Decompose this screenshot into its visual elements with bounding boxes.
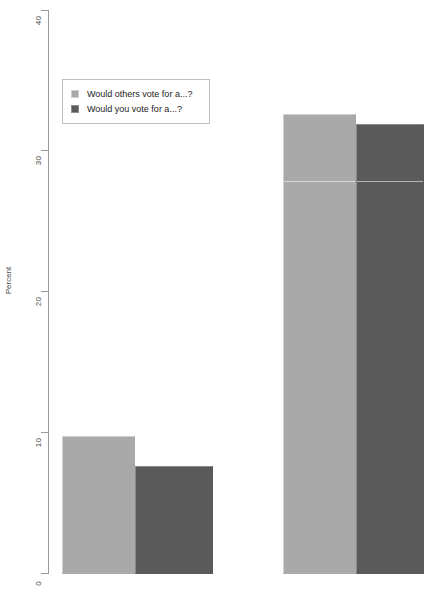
y-axis-tick-label-30-wrap: 30 bbox=[16, 145, 38, 155]
y-axis-tick-label-40-wrap: 40 bbox=[16, 5, 38, 15]
y-axis-tick-label-0: 0 bbox=[34, 573, 43, 590]
bar-group1-series2 bbox=[135, 466, 213, 574]
y-axis-tick-label-10-wrap: 10 bbox=[16, 427, 38, 437]
bar-highlight-line bbox=[357, 181, 423, 182]
legend-label-series2: Would you vote for a...? bbox=[87, 104, 182, 114]
y-axis-tick-label-20-wrap: 20 bbox=[16, 286, 38, 296]
light-gray-swatch-icon bbox=[71, 90, 79, 98]
legend-label-series1: Would others vote for a...? bbox=[87, 89, 192, 99]
y-axis-tick-label-20: 20 bbox=[34, 291, 43, 313]
bar-group2-series2 bbox=[356, 124, 424, 574]
y-axis-tick-label-10: 10 bbox=[34, 432, 43, 454]
bar-group1-series1 bbox=[62, 436, 135, 574]
y-axis-title: Percent bbox=[4, 251, 13, 311]
y-axis-tick-label-40: 40 bbox=[34, 10, 43, 32]
legend-item-series1[interactable]: Would others vote for a...? bbox=[71, 87, 201, 101]
legend-item-series2[interactable]: Would you vote for a...? bbox=[71, 102, 201, 116]
y-axis-tick-label-30: 30 bbox=[34, 150, 43, 172]
y-axis-tick-label-0-wrap: 0 bbox=[16, 568, 38, 578]
chart-legend: Would others vote for a...? Would you vo… bbox=[62, 79, 210, 124]
bar-group2-series1 bbox=[283, 114, 356, 574]
dark-gray-swatch-icon bbox=[71, 105, 79, 113]
bar-highlight-line bbox=[284, 181, 355, 182]
